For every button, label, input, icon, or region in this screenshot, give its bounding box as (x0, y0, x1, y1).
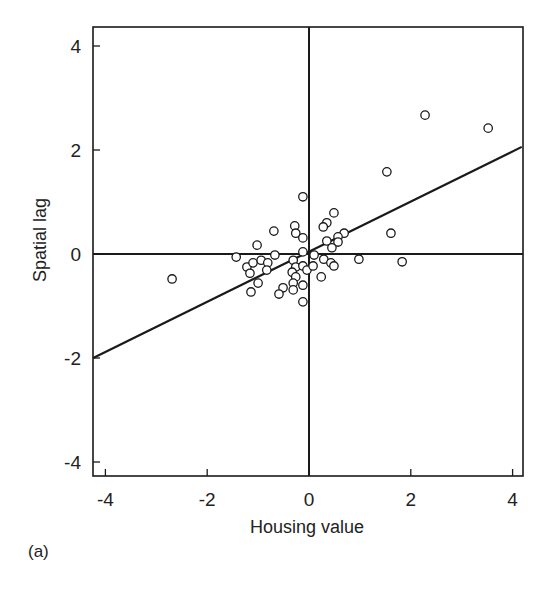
data-point (246, 269, 254, 277)
y-tick-label: 4 (70, 36, 81, 57)
moran-scatterplot: -4-2024 -4-2024 Housing value Spatial la… (0, 0, 558, 589)
data-point (275, 290, 283, 298)
data-point (299, 281, 307, 289)
data-point (398, 258, 406, 266)
x-tick-label: 4 (507, 489, 518, 510)
panel-label: (a) (28, 542, 49, 561)
data-point (355, 255, 363, 263)
data-point (253, 241, 261, 249)
data-points (168, 111, 492, 306)
data-point (421, 111, 429, 119)
data-point (330, 262, 338, 270)
data-point (310, 251, 318, 259)
x-tick-label: 2 (406, 489, 417, 510)
data-point (299, 298, 307, 306)
y-axis-label: Spatial lag (30, 198, 50, 282)
data-point (249, 259, 257, 267)
y-tick-label: -4 (64, 452, 81, 473)
x-axis-ticks: -4-2024 (97, 469, 518, 510)
data-point (271, 251, 279, 259)
data-point (263, 266, 271, 274)
data-point (484, 124, 492, 132)
data-point (383, 168, 391, 176)
data-point (387, 229, 395, 237)
data-point (309, 262, 317, 270)
data-point (299, 193, 307, 201)
x-tick-label: -2 (199, 489, 216, 510)
x-tick-label: 0 (304, 489, 315, 510)
data-point (299, 234, 307, 242)
data-point (289, 286, 297, 294)
data-point (247, 288, 255, 296)
data-point (328, 244, 336, 252)
data-point (168, 275, 176, 283)
y-tick-label: -2 (64, 348, 81, 369)
y-axis-ticks: -4-2024 (64, 36, 100, 473)
data-point (330, 209, 338, 217)
y-tick-label: 2 (70, 140, 81, 161)
data-point (254, 279, 262, 287)
data-point (299, 248, 307, 256)
x-tick-label: -4 (97, 489, 114, 510)
data-point (319, 223, 327, 231)
y-tick-label: 0 (70, 244, 81, 265)
data-point (317, 273, 325, 281)
x-axis-label: Housing value (250, 517, 364, 537)
data-point (270, 227, 278, 235)
data-point (232, 253, 240, 261)
